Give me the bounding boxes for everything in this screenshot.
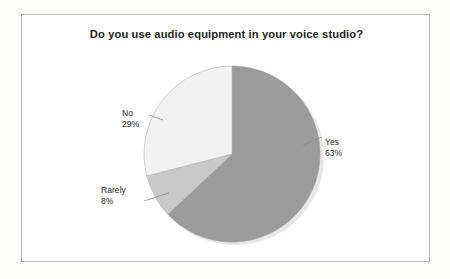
chart-frame: Do you use audio equipment in your voice… bbox=[21, 14, 430, 262]
pie-label-rarely-name: Rarely bbox=[101, 185, 126, 195]
pie-label-rarely: Rarely 8% bbox=[101, 185, 126, 206]
pie-label-yes: Yes 63% bbox=[325, 137, 342, 158]
pie-label-yes-name: Yes bbox=[325, 137, 339, 147]
scanned-page-background: Do you use audio equipment in your voice… bbox=[0, 0, 450, 279]
pie-label-rarely-value: 8% bbox=[101, 196, 126, 207]
pie-slices bbox=[144, 66, 320, 242]
pie-chart-plot-area: Yes 63% No 29% Rarely 8% bbox=[22, 15, 431, 263]
pie-label-no-name: No bbox=[122, 108, 133, 118]
pie-chart-svg bbox=[22, 15, 431, 263]
pie-label-no: No 29% bbox=[122, 108, 139, 129]
pie-label-no-value: 29% bbox=[122, 119, 139, 130]
pie-label-yes-value: 63% bbox=[325, 148, 342, 159]
